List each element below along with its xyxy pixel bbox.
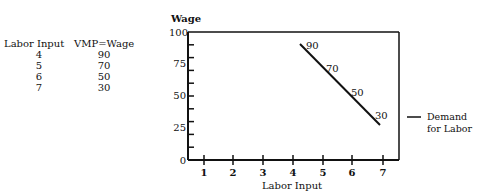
y-tick-100: 100 <box>169 27 188 38</box>
y-tick-50: 50 <box>173 90 186 101</box>
x-tick-4: 4 <box>290 167 297 178</box>
plot-frame <box>188 32 399 160</box>
y-tick-25: 25 <box>173 122 186 133</box>
y-tick-0: 0 <box>180 155 186 166</box>
y-tick-75: 75 <box>173 58 186 69</box>
point-label-30: 30 <box>375 110 388 121</box>
x-tick-6: 6 <box>349 167 356 178</box>
y-axis-label: Wage <box>170 13 201 24</box>
point-labels: 90 70 50 30 <box>306 40 388 121</box>
demand-curve <box>300 44 380 125</box>
legend-label-line1: Demand <box>427 111 467 122</box>
x-tick-5: 5 <box>320 167 327 178</box>
y-tick-labels: 0 25 50 75 100 <box>169 27 188 166</box>
legend: Demand for Labor <box>407 111 473 134</box>
point-label-50: 50 <box>351 87 364 98</box>
demand-chart: Wage 0 25 50 75 100 1 2 <box>0 0 484 194</box>
point-label-70: 70 <box>326 63 339 74</box>
x-tick-7: 7 <box>380 167 387 178</box>
x-tick-3: 3 <box>260 167 267 178</box>
x-tick-2: 2 <box>230 167 237 178</box>
x-tick-labels: 1 2 3 4 5 6 7 <box>201 167 387 178</box>
x-tick-1: 1 <box>201 167 208 178</box>
x-axis-label: Labor Input <box>262 180 322 191</box>
legend-label-line2: for Labor <box>427 123 473 134</box>
point-label-90: 90 <box>306 40 319 51</box>
